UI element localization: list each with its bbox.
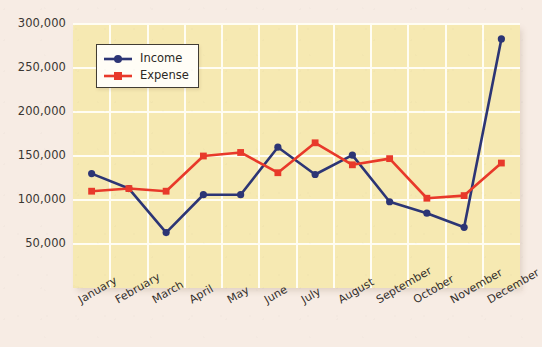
x-axis-tick-label: January — [76, 274, 119, 306]
x-axis-tick-label: April — [187, 282, 216, 306]
chart-legend: IncomeExpense — [96, 44, 199, 88]
legend-swatch-icon — [103, 51, 133, 65]
legend-swatch-icon — [103, 68, 133, 82]
legend-item-income[interactable]: Income — [103, 49, 189, 66]
x-axis-tick-label: June — [262, 283, 290, 306]
legend-label: Expense — [140, 68, 189, 82]
x-axis-tick-label: July — [299, 285, 323, 306]
x-axis-tick-label: May — [225, 283, 251, 306]
legend-label: Income — [140, 51, 182, 65]
legend-item-expense[interactable]: Expense — [103, 66, 189, 83]
x-axis-tick-label: August — [336, 275, 376, 306]
